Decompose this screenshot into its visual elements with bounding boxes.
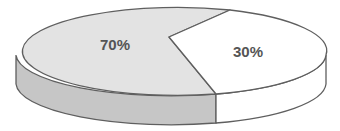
label-30: 30%	[233, 43, 263, 60]
label-70: 70%	[100, 36, 130, 53]
pie-chart: 70% 30%	[0, 0, 340, 131]
